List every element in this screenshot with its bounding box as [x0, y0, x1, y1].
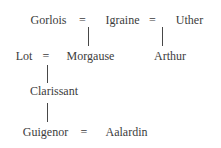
line-igraine-uther-to-arthur: [162, 27, 164, 46]
line-lot-morgause-to-clarissant: [47, 65, 49, 83]
line-clarissant-to-guigenor: [47, 103, 49, 122]
person-gorlois: Gorlois: [31, 14, 67, 26]
family-tree-diagram: Gorlois = Igraine = Uther Lot = Morgause…: [0, 0, 221, 148]
person-igraine: Igraine: [106, 14, 140, 26]
marriage-equals-igraine-uther: =: [149, 14, 156, 26]
person-arthur: Arthur: [154, 50, 186, 62]
marriage-equals-guigenor-aalardin: =: [81, 126, 88, 138]
line-gorlois-igraine-to-morgause: [88, 27, 90, 46]
person-morgause: Morgause: [67, 50, 115, 62]
marriage-equals-lot-morgause: =: [43, 50, 50, 62]
person-aalardin: Aalardin: [106, 126, 148, 138]
person-clarissant: Clarissant: [30, 85, 78, 97]
marriage-equals-gorlois-igraine: =: [79, 14, 86, 26]
person-uther: Uther: [176, 14, 203, 26]
person-lot: Lot: [16, 50, 33, 62]
person-guigenor: Guigenor: [23, 126, 68, 138]
